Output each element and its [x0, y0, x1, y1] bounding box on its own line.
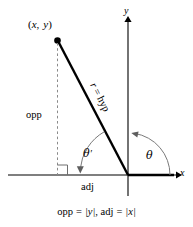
- point-marker: [54, 37, 61, 44]
- opposite-side-label: opp: [26, 110, 42, 121]
- adjacent-side-label: adj: [81, 182, 94, 193]
- caption-opp-word: opp: [57, 206, 73, 217]
- standard-angle-arrowhead: [131, 131, 138, 137]
- reference-angle-label: θ′: [83, 148, 92, 159]
- y-axis-arrowhead: [124, 16, 131, 22]
- figure-caption: opp=|y|, adj=|x|: [0, 206, 193, 217]
- reference-angle-prime-glyph: ′: [90, 148, 92, 159]
- point-label-close-paren: ): [48, 18, 52, 30]
- caption-abs-x: |x|: [125, 206, 135, 217]
- right-angle-marker: [58, 165, 68, 175]
- caption-abs-y: |y|: [85, 206, 95, 217]
- caption-equals-one: =: [76, 206, 82, 217]
- point-label-comma: ,: [37, 18, 40, 30]
- caption-adj-word: adj: [101, 206, 114, 217]
- trigonometry-figure: (x,y) y x opp adj r = hyp θ′ θ opp=|y|, …: [0, 0, 193, 227]
- caption-comma: ,: [95, 206, 98, 217]
- caption-equals-two: =: [116, 206, 122, 217]
- y-axis-label: y: [124, 6, 128, 16]
- terminal-ray: [58, 41, 128, 175]
- x-axis-label: x: [180, 168, 184, 178]
- standard-angle-theta-glyph: θ: [146, 149, 153, 162]
- reference-angle-arrowhead: [77, 166, 84, 173]
- standard-angle-label: θ: [146, 150, 153, 161]
- reference-angle-theta-glyph: θ: [83, 147, 90, 160]
- point-coordinate-label: (x,y): [28, 19, 52, 30]
